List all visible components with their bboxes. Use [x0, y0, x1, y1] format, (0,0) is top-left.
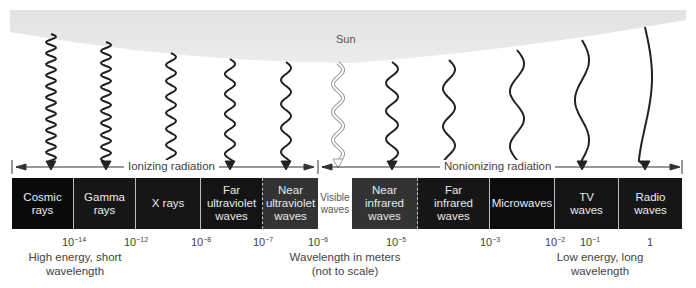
tick-label: 10−6	[308, 236, 328, 248]
radiation-wave	[510, 50, 524, 166]
tick-base: 10	[308, 236, 320, 248]
radiation-wave	[281, 62, 291, 166]
segment-label-line: waves	[266, 210, 315, 223]
segment-far-uv: Farultravioletwaves	[201, 178, 263, 229]
segment-label-line: Visible	[320, 192, 349, 204]
segment-label-line: infrared	[365, 197, 404, 210]
segment-far-ir: Farinfraredwaves	[418, 178, 490, 229]
tick-base: 10	[191, 236, 203, 248]
radiation-wave	[386, 62, 398, 166]
tick-label: 10−2	[545, 236, 565, 248]
segment-xray: X rays	[136, 178, 201, 229]
segment-label-line: X rays	[152, 197, 185, 210]
segment-label: TVwaves	[570, 191, 603, 217]
arrowhead-icon	[577, 161, 587, 170]
tick-exponent: −8	[203, 236, 211, 243]
tick-label: 10−3	[480, 236, 500, 248]
arrowhead-icon	[101, 161, 111, 170]
tick-label: 10−14	[62, 236, 86, 248]
radiation-wave	[101, 42, 111, 166]
tick-base: 1	[647, 236, 653, 248]
radiation-wave	[46, 34, 56, 166]
tick-exponent: −5	[398, 236, 406, 243]
nonionizing-radiation-label: Nonionizing radiation	[440, 160, 555, 172]
radiation-wave	[225, 59, 235, 166]
segment-label-line: waves	[320, 204, 349, 216]
tick-exponent: −2	[557, 236, 565, 243]
segment-cosmic: Cosmicrays	[12, 178, 74, 229]
caption-low-energy-line2: wavelength	[530, 264, 670, 278]
sun-label: Sun	[336, 33, 356, 45]
segment-label: Gammarays	[84, 191, 125, 217]
tick-label: 10−5	[386, 236, 406, 248]
arrowhead-icon	[46, 161, 56, 170]
segment-radio: Radiowaves	[619, 178, 682, 229]
caption-high-energy-line2: wavelength	[5, 264, 145, 278]
caption-high-energy-line1: High energy, short	[5, 250, 145, 264]
radiation-wave	[639, 27, 652, 166]
segment-microwaves: Microwaves	[490, 178, 555, 229]
segment-label: X rays	[152, 197, 185, 210]
segment-near-ir: Nearinfraredwaves	[352, 178, 418, 229]
segment-label-line: rays	[84, 204, 125, 217]
segment-label-line: Gamma	[84, 191, 125, 204]
spectrum-bar: CosmicraysGammaraysX raysFarultravioletw…	[12, 178, 682, 229]
segment-label: Cosmicrays	[23, 191, 61, 217]
segment-label-line: waves	[365, 210, 404, 223]
arrowhead-icon	[640, 161, 650, 170]
tick-exponent: −3	[492, 236, 500, 243]
ionizing-arrow-left-head	[16, 164, 26, 170]
tick-label: 10−1	[580, 236, 600, 248]
caption-wavelength-axis: Wavelength in meters (not to scale)	[265, 250, 425, 278]
tick-exponent: −6	[320, 236, 328, 243]
caption-low-energy-line1: Low energy, long	[530, 250, 670, 264]
tick-base: 10	[386, 236, 398, 248]
segment-label-line: Cosmic	[23, 191, 61, 204]
segment-label-line: ultraviolet	[266, 197, 315, 210]
segment-label-line: TV	[570, 191, 603, 204]
segment-label-line: Radio	[634, 191, 667, 204]
tick-base: 10	[480, 236, 492, 248]
tick-label: 10−12	[124, 236, 148, 248]
segment-label-line: Microwaves	[492, 197, 553, 210]
tick-label: 10−7	[253, 236, 273, 248]
segment-near-uv: Nearultravioletwaves	[263, 178, 318, 229]
caption-low-energy: Low energy, long wavelength	[530, 250, 670, 278]
arrowhead-icon	[387, 161, 397, 170]
tick-exponent: −7	[265, 236, 273, 243]
tick-exponent: −12	[136, 236, 148, 243]
segment-label-line: ultraviolet	[207, 197, 256, 210]
radiation-wave	[166, 53, 176, 166]
tick-base: 10	[580, 236, 592, 248]
tick-exponent: −14	[74, 236, 86, 243]
tick-label: 10−8	[191, 236, 211, 248]
segment-label-line: Near	[365, 184, 404, 197]
tick-label: 1	[647, 236, 653, 248]
segment-label: Nearinfraredwaves	[365, 184, 404, 223]
radiation-wave	[575, 40, 589, 166]
radiation-wave	[443, 60, 455, 166]
segment-label-line: infrared	[434, 197, 473, 210]
tick-base: 10	[253, 236, 265, 248]
segment-label-line: waves	[434, 210, 473, 223]
segment-visible: Visiblewaves	[318, 178, 352, 229]
caption-axis-line1: Wavelength in meters	[265, 250, 425, 264]
arrowhead-icon	[281, 161, 291, 170]
tick-base: 10	[545, 236, 557, 248]
nonionizing-arrow-left-head	[322, 164, 332, 170]
arrowhead-icon	[225, 161, 235, 170]
caption-high-energy: High energy, short wavelength	[5, 250, 145, 278]
segment-label-line: Far	[434, 184, 473, 197]
ionizing-radiation-label: Ionizing radiation	[124, 160, 219, 172]
segment-label: Farinfraredwaves	[434, 184, 473, 223]
segment-tv: TVwaves	[555, 178, 619, 229]
tick-base: 10	[124, 236, 136, 248]
segment-label-line: waves	[634, 204, 667, 217]
segment-label: Nearultravioletwaves	[266, 184, 315, 223]
caption-axis-line2: (not to scale)	[265, 264, 425, 278]
ionizing-arrow-right-head	[304, 164, 314, 170]
nonionizing-arrow-right-head	[670, 164, 680, 170]
segment-label: Visiblewaves	[320, 192, 349, 216]
segment-label-line: rays	[23, 204, 61, 217]
segment-label-line: waves	[570, 204, 603, 217]
